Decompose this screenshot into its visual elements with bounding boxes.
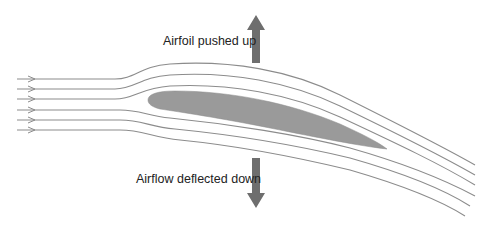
downwash-label: Airflow deflected down: [136, 172, 261, 186]
lift-label: Airfoil pushed up: [163, 34, 256, 48]
airfoil-diagram: Airfoil pushed up Airflow deflected down: [0, 0, 491, 225]
streamlines: [17, 63, 475, 216]
flow-direction-arrows: [28, 76, 35, 133]
streamline-5: [17, 120, 470, 206]
